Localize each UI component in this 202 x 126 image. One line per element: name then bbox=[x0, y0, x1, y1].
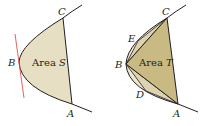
label-b-right: B bbox=[114, 59, 122, 70]
label-c: C bbox=[58, 6, 66, 17]
label-b: B bbox=[7, 57, 15, 68]
label-a: A bbox=[66, 108, 74, 119]
label-a-right: A bbox=[172, 108, 180, 119]
label-d: D bbox=[135, 89, 144, 100]
label-e: E bbox=[127, 33, 136, 44]
label-c-right: C bbox=[162, 6, 170, 17]
area-s-label: Area S bbox=[31, 57, 66, 68]
area-t-label: Area T bbox=[138, 57, 174, 68]
parabola-area-diagram: C B A Area S C E B D A Area T bbox=[0, 0, 202, 126]
right-figure: C E B D A Area T bbox=[114, 5, 198, 119]
left-figure: C B A Area S bbox=[7, 5, 92, 119]
